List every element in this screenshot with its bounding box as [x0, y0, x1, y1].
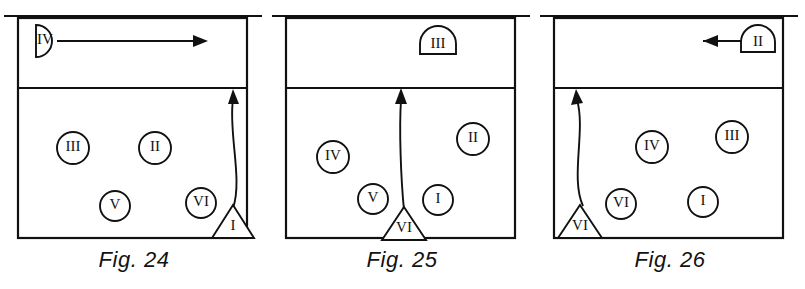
- marker-label: I: [701, 192, 706, 208]
- marker-iii-dome-top: III: [420, 26, 456, 54]
- volleyball-rotation-figures: IV III II V VI: [0, 0, 805, 289]
- marker-label: VI: [193, 193, 209, 209]
- marker-ii-dome-top-right: II: [741, 25, 775, 52]
- marker-label: V: [368, 189, 379, 205]
- marker-label: VI: [396, 219, 412, 235]
- arrow-horizontal-left: [703, 35, 741, 47]
- marker-label: IV: [644, 137, 660, 153]
- marker-label: IV: [37, 31, 53, 47]
- marker-label: IV: [325, 147, 341, 163]
- arrow-curved-up-left: [571, 89, 583, 206]
- arrow-curved-up-right: [228, 89, 239, 208]
- marker-label: III: [66, 138, 81, 154]
- figure-caption: Fig. 26: [536, 247, 804, 273]
- marker-label: I: [436, 190, 441, 206]
- marker-i-circle: I: [423, 185, 453, 215]
- fig-25-diagram: III IV II V I: [268, 0, 536, 250]
- marker-iv-circle: IV: [636, 131, 668, 163]
- marker-label: II: [468, 129, 478, 145]
- marker-label: II: [753, 33, 763, 49]
- figure-panel-fig-25: III IV II V I: [268, 0, 536, 289]
- marker-iv-circle: IV: [317, 141, 349, 173]
- fig-26-diagram: II IV III VI I: [536, 0, 804, 250]
- arrow-straight-up: [395, 88, 407, 210]
- marker-vi-circle: VI: [606, 189, 636, 219]
- marker-i-circle: I: [688, 187, 718, 217]
- marker-vi-triangle-corner: VI: [558, 205, 602, 238]
- marker-iv-halfcircle-left: IV: [36, 25, 53, 57]
- marker-v-circle: V: [358, 184, 388, 214]
- marker-vi-circle: VI: [186, 188, 216, 218]
- marker-label: I: [231, 217, 236, 233]
- figure-panel-fig-26: II IV III VI I: [536, 0, 804, 289]
- marker-label: VI: [572, 217, 588, 233]
- marker-ii-circle: II: [457, 123, 489, 155]
- arrow-horizontal-right: [57, 35, 208, 47]
- figure-caption: Fig. 25: [268, 247, 536, 273]
- figure-caption: Fig. 24: [0, 247, 268, 273]
- marker-label: III: [431, 35, 446, 51]
- marker-label: III: [725, 127, 740, 143]
- marker-label: V: [110, 196, 121, 212]
- marker-label: II: [150, 138, 160, 154]
- marker-v-circle: V: [100, 191, 130, 221]
- figure-panel-fig-24: IV III II V VI: [0, 0, 268, 289]
- marker-iii-circle: III: [57, 132, 89, 164]
- marker-label: VI: [613, 194, 629, 210]
- marker-vi-triangle: VI: [382, 207, 426, 240]
- fig-24-diagram: IV III II V VI: [0, 0, 268, 250]
- marker-iii-circle: III: [716, 121, 748, 153]
- marker-ii-circle: II: [139, 132, 171, 164]
